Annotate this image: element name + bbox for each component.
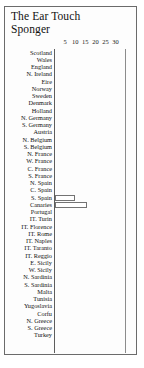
- table-row: Denmark: [5, 100, 138, 107]
- table-row: IT. Reggio: [5, 252, 138, 259]
- x-tick-label-30: 30: [112, 37, 119, 46]
- bar: [55, 195, 75, 201]
- x-tick-label-5: 5: [63, 37, 66, 46]
- table-row: England: [5, 64, 138, 71]
- table-row: Malta: [5, 288, 138, 295]
- table-row: S. France: [5, 172, 138, 179]
- bar-rows: ScotlandWalesEnglandN. IrelandEireNorway…: [5, 49, 138, 339]
- x-axis-tick-labels: 51015202530: [5, 37, 138, 48]
- table-row: W. France: [5, 158, 138, 165]
- table-row: IT. Florence: [5, 223, 138, 230]
- table-row: N. Spain: [5, 180, 138, 187]
- table-row: N. Greece: [5, 317, 138, 324]
- x-tick-label-20: 20: [92, 37, 99, 46]
- table-row: S. Greece: [5, 325, 138, 332]
- table-row: Portugal: [5, 209, 138, 216]
- plot-area: 51015202530 ScotlandWalesEnglandN. Irela…: [5, 37, 138, 355]
- category-label: Turkey: [34, 331, 52, 339]
- figure-panel: The Ear Touch Sponger 51015202530 Scotla…: [4, 6, 137, 355]
- table-row: Corfu: [5, 310, 138, 317]
- x-tick-label-10: 10: [72, 37, 79, 46]
- table-row: Norway: [5, 85, 138, 92]
- table-row: S. Spain: [5, 194, 138, 201]
- table-row: Eire: [5, 78, 138, 85]
- chart-title-line-1: The Ear Touch: [11, 10, 133, 23]
- bar: [55, 202, 87, 208]
- table-row: Scotland: [5, 49, 138, 56]
- chart-title-line-2: Sponger: [11, 23, 133, 36]
- table-row: Yugoslavia: [5, 303, 138, 310]
- table-row: Canaries: [5, 201, 138, 208]
- x-tick-label-15: 15: [82, 37, 89, 46]
- chart-title: The Ear Touch Sponger: [11, 10, 133, 36]
- x-tick-label-25: 25: [102, 37, 109, 46]
- table-row: C. Spain: [5, 187, 138, 194]
- table-row: N. France: [5, 151, 138, 158]
- table-row: E. Sicily: [5, 259, 138, 266]
- table-row: Turkey: [5, 332, 138, 339]
- table-row: N. Ireland: [5, 71, 138, 78]
- table-row: S. Germany: [5, 122, 138, 129]
- table-row: Sweden: [5, 93, 138, 100]
- table-row: Wales: [5, 56, 138, 63]
- table-row: S. Sardinia: [5, 281, 138, 288]
- table-row: S. Belgium: [5, 143, 138, 150]
- table-row: C. France: [5, 165, 138, 172]
